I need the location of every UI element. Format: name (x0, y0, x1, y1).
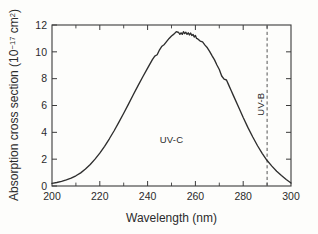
uv-b-label: UV-B (255, 93, 266, 116)
plot-annotations: UV-CUV-B (160, 93, 266, 145)
y-tick-label-0: 0 (41, 180, 47, 192)
absorption-cross-section-chart: 200220240260280300 024681012 UV-CUV-B Wa… (0, 0, 318, 234)
x-tick-label-220: 220 (91, 190, 109, 202)
x-tick-label-200: 200 (43, 190, 61, 202)
y-tick-label-4: 4 (41, 126, 47, 138)
y-axis-title-prefix: Absorption cross section (10 (7, 49, 21, 201)
x-axis-tick-labels: 200220240260280300 (43, 190, 300, 202)
y-tick-label-6: 6 (41, 99, 47, 111)
y-tick-label-12: 12 (35, 19, 47, 31)
y-axis-title-exponent: −17 (8, 37, 17, 50)
uv-c-label: UV-C (160, 134, 184, 145)
x-tick-label-280: 280 (234, 190, 252, 202)
x-tick-label-240: 240 (139, 190, 157, 202)
y-tick-label-8: 8 (41, 72, 47, 84)
x-axis-title: Wavelength (nm) (126, 211, 217, 225)
y-axis-title-suffix: cm (7, 17, 21, 36)
figure-container: 200220240260280300 024681012 UV-CUV-B Wa… (0, 0, 318, 234)
y-tick-label-2: 2 (41, 153, 47, 165)
y-axis-tick-labels: 024681012 (35, 19, 47, 192)
y-axis-title: Absorption cross section (10−17 cm2) (7, 9, 21, 201)
y-axis-title-close: ) (7, 9, 21, 13)
y-tick-label-10: 10 (35, 46, 47, 58)
x-tick-label-260: 260 (187, 190, 205, 202)
x-tick-label-300: 300 (282, 190, 300, 202)
x-axis-major-ticks (100, 25, 243, 186)
